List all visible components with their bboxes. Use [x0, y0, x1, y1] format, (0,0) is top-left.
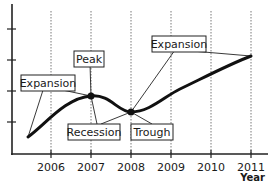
label-recession: Recession — [67, 124, 122, 140]
label-expansion-left: Expansion — [20, 75, 77, 91]
label-peak: Peak — [74, 51, 104, 67]
svg-text:Trough: Trough — [132, 126, 170, 139]
svg-text:Expansion: Expansion — [151, 38, 208, 51]
x-label-2006: 2006 — [37, 161, 65, 174]
x-label-2007: 2007 — [77, 161, 105, 174]
label-trough: Trough — [131, 124, 173, 140]
svg-text:Recession: Recession — [67, 126, 122, 139]
chart-canvas: 2006 2007 2008 2009 2010 2011 Year Expan… — [0, 0, 275, 182]
trough-marker — [128, 109, 135, 116]
peak-marker — [88, 93, 95, 100]
x-axis-title: Year — [239, 172, 265, 182]
svg-text:Expansion: Expansion — [20, 77, 77, 90]
svg-text:Peak: Peak — [76, 53, 103, 66]
x-label-2010: 2010 — [197, 161, 225, 174]
x-tick-labels: 2006 2007 2008 2009 2010 2011 — [37, 161, 265, 174]
x-label-2008: 2008 — [117, 161, 145, 174]
business-cycle-chart: 2006 2007 2008 2009 2010 2011 Year Expan… — [0, 0, 275, 182]
label-expansion-right: Expansion — [151, 36, 208, 52]
x-label-2009: 2009 — [157, 161, 185, 174]
